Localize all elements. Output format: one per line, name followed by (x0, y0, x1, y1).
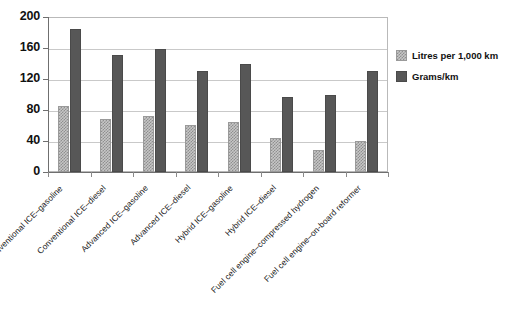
bar-litres (270, 138, 281, 172)
y-tick-label: 120 (0, 71, 40, 85)
bar-grams (155, 49, 166, 172)
x-tick-mark (48, 172, 49, 177)
x-tick-mark (261, 172, 262, 177)
bar-litres (228, 122, 239, 172)
x-tick-mark (91, 172, 92, 177)
bar-litres (58, 106, 69, 172)
legend-label-grams: Grams/km (412, 71, 458, 82)
x-tick-mark (388, 172, 389, 177)
bar-grams (112, 55, 123, 172)
bar-grams (325, 95, 336, 173)
chart-legend: Litres per 1,000 km Grams/km (396, 50, 516, 92)
x-tick-mark (346, 172, 347, 177)
x-axis-label: Hybrid ICE–diesel (223, 183, 278, 238)
x-tick-mark (218, 172, 219, 177)
y-tick-label: 160 (0, 40, 40, 54)
bar-chart: 04080120160200 Conventional ICE–gasoline… (0, 0, 519, 332)
bar-litres (185, 125, 196, 172)
y-tick-label: 40 (0, 133, 40, 147)
bar-grams (367, 71, 378, 172)
litres-swatch-icon (396, 50, 407, 61)
x-axis-label: Fuel cell engine–on-board reformer (262, 183, 363, 284)
bar-litres (313, 150, 324, 172)
bar-grams (240, 64, 251, 173)
bar-litres (355, 141, 366, 172)
y-tick-label: 80 (0, 102, 40, 116)
bar-grams (282, 97, 293, 172)
y-tick-label: 0 (0, 164, 40, 178)
legend-item-litres: Litres per 1,000 km (396, 50, 516, 61)
x-tick-mark (303, 172, 304, 177)
bars-layer (48, 17, 389, 172)
bar-litres (100, 119, 111, 172)
x-axis-label: Fuel cell engine–compressed hydrogen (209, 183, 321, 295)
y-tick-label: 200 (0, 9, 40, 23)
bar-grams (70, 29, 81, 172)
x-axis-label: Conventional ICE–gasoline (0, 183, 65, 263)
grams-swatch-icon (396, 71, 407, 82)
bar-grams (197, 71, 208, 172)
bar-litres (143, 116, 154, 172)
x-axis-label: Hybrid ICE–gasoline (173, 183, 235, 245)
x-axis-label: Advanced ICE–gasoline (79, 183, 150, 254)
x-axis-label: Advanced ICE–diesel (128, 183, 193, 248)
x-tick-mark (176, 172, 177, 177)
x-tick-mark (133, 172, 134, 177)
legend-item-grams: Grams/km (396, 71, 516, 82)
legend-label-litres: Litres per 1,000 km (412, 50, 498, 61)
x-axis-label: Conventional ICE–diesel (35, 183, 108, 256)
